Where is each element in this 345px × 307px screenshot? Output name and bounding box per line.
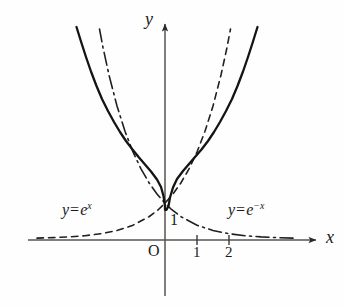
y-axis-label: y: [145, 10, 153, 28]
origin-label: O: [148, 243, 160, 259]
x-tick-label-1: 1: [193, 245, 201, 260]
curve-label-exp-neg-x: y=e−x: [228, 202, 264, 218]
curve-label-exp-x-equals: =: [69, 201, 80, 218]
x-tick-label-2: 2: [225, 245, 233, 260]
curve-label-exp-neg-x-exponent: −x: [253, 200, 264, 211]
curve-sum: [77, 27, 258, 210]
x-axis-label: x: [326, 228, 334, 246]
y-intercept-label: 1: [170, 212, 178, 228]
graph-canvas: [0, 0, 345, 307]
curve-label-exp-x: y=ex: [62, 202, 92, 218]
figure-container: y x O 1 1 2 y=ex y=e−x: [0, 0, 345, 307]
curve-label-exp-neg-x-equals: =: [235, 201, 246, 218]
curve-label-exp-x-exponent: x: [87, 200, 91, 211]
